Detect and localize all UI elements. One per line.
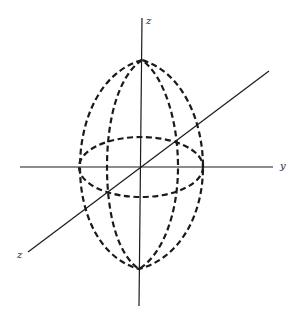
axis-label-x: z	[17, 250, 22, 260]
axis-label-y: y	[280, 161, 286, 171]
inner-meridian	[107, 60, 178, 269]
diagonal-axis	[28, 71, 269, 252]
diagram-canvas	[0, 0, 301, 320]
axis-label-top: z	[146, 16, 151, 26]
ellipsoid-diagram: z y z	[0, 0, 301, 320]
